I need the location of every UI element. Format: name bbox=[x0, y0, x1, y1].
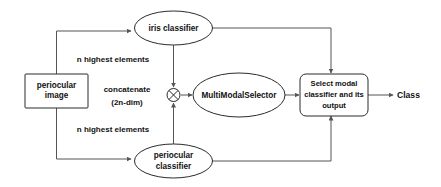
select-modal-label-line3: output bbox=[322, 101, 346, 110]
node-periocular-classifier[interactable]: periocular classifier bbox=[135, 144, 213, 178]
node-multimodal-selector[interactable]: MultiModalSelector bbox=[193, 73, 285, 117]
edge-iris-to-select-modal bbox=[212, 28, 331, 73]
edge-label-concatenate-line1: concatenate bbox=[104, 85, 151, 94]
edge-input-to-iris bbox=[57, 31, 132, 74]
iris-classifier-label: iris classifier bbox=[148, 24, 199, 33]
node-iris-classifier[interactable]: iris classifier bbox=[135, 11, 213, 45]
periocular-image-label-line2: image bbox=[45, 91, 69, 100]
edge-label-concatenate-line2: (2n-dim) bbox=[111, 98, 143, 107]
class-output-label: Class bbox=[397, 90, 420, 100]
periocular-classifier-label-line2: classifier bbox=[156, 162, 192, 171]
edge-periocular-to-select-modal bbox=[212, 116, 331, 161]
select-modal-label-line2: classifier and its bbox=[304, 90, 364, 99]
select-modal-label-line1: Select modal bbox=[311, 79, 358, 88]
edge-label-bottom-branch: n highest elements bbox=[77, 125, 150, 134]
edge-label-top-branch: n highest elements bbox=[77, 55, 150, 64]
periocular-image-label-line1: periocular bbox=[37, 81, 77, 90]
diagram-canvas: periocular image iris classifier periocu… bbox=[0, 0, 441, 187]
multimodal-selector-label: MultiModalSelector bbox=[201, 91, 277, 100]
node-select-modal-classifier[interactable]: Select modal classifier and its output bbox=[300, 74, 368, 116]
node-periocular-image[interactable]: periocular image bbox=[25, 74, 88, 108]
periocular-classifier-label-line1: periocular bbox=[154, 151, 194, 160]
circle-x-operator-icon[interactable] bbox=[167, 89, 180, 102]
flowchart-svg: periocular image iris classifier periocu… bbox=[0, 0, 441, 187]
